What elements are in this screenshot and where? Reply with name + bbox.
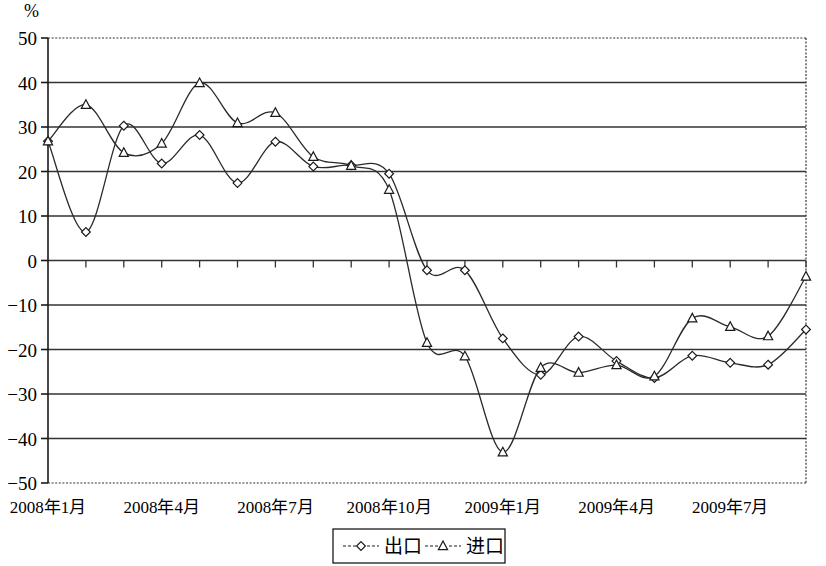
data-point-marker: [688, 351, 697, 360]
y-tick-label: 50: [18, 28, 37, 49]
data-point-marker: [650, 371, 659, 380]
y-tick-label: −10: [7, 295, 37, 316]
x-tick-label: 2008年7月: [237, 498, 314, 517]
x-tick-label: 2009年7月: [692, 498, 769, 517]
y-tick-label: −30: [7, 384, 37, 405]
data-point-marker: [726, 358, 735, 367]
line-chart-svg: 50403020100−10−20−30−40−50 2008年1月2008年4…: [0, 0, 826, 566]
x-tick-label: 2008年10月: [347, 498, 432, 517]
data-point-marker: [195, 131, 204, 140]
legend-diamond-icon: [357, 542, 366, 551]
data-point-marker: [157, 159, 166, 168]
y-tick-label: −40: [7, 429, 37, 450]
x-axis-ticks: 2008年1月2008年4月2008年7月2008年10月2009年1月2009…: [10, 261, 806, 518]
data-point-marker: [233, 179, 242, 188]
y-tick-label: 40: [18, 73, 37, 94]
data-point-marker: [498, 334, 507, 343]
data-point-marker: [688, 313, 697, 322]
y-tick-label: 0: [28, 251, 38, 272]
y-tick-label: 20: [18, 162, 37, 183]
data-point-marker: [764, 360, 773, 369]
x-tick-label: 2008年1月: [10, 498, 87, 517]
x-tick-label: 2009年1月: [465, 498, 542, 517]
data-point-marker: [385, 185, 394, 194]
data-point-marker: [233, 118, 242, 127]
chart-container: % 50403020100−10−20−30−40−50 2008年1月2008…: [0, 0, 826, 566]
data-point-marker: [574, 332, 583, 341]
data-point-marker: [309, 152, 318, 161]
y-tick-label: 30: [18, 117, 37, 138]
legend-label: 出口: [384, 536, 422, 557]
data-point-marker: [81, 100, 90, 109]
y-tick-label: 10: [18, 206, 37, 227]
data-point-marker: [801, 272, 810, 281]
legend-label: 进口: [466, 536, 504, 557]
data-point-marker: [119, 148, 128, 157]
x-tick-label: 2008年4月: [123, 498, 200, 517]
data-series-group: [43, 78, 810, 456]
x-tick-label: 2009年4月: [578, 498, 655, 517]
y-tick-label: −50: [7, 473, 37, 494]
legend-triangle-icon: [438, 541, 447, 550]
data-point-marker: [536, 363, 545, 372]
y-axis-ticks: 50403020100−10−20−30−40−50: [7, 28, 48, 494]
data-point-marker: [271, 137, 280, 146]
chart-legend: 出口进口: [333, 529, 505, 563]
data-point-marker: [422, 338, 431, 347]
data-point-marker: [309, 162, 318, 171]
y-tick-label: −20: [7, 340, 37, 361]
